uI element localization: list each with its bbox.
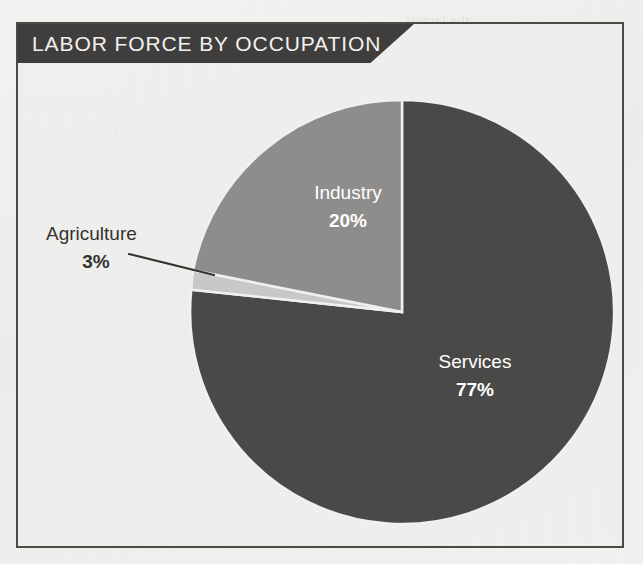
slice-label-agriculture-value: 3%	[82, 251, 110, 272]
slice-label-services-value: 77%	[456, 379, 494, 400]
slice-label-industry-value: 20%	[329, 210, 367, 231]
slice-label-services-name: Services	[439, 351, 512, 372]
slice-label-industry-name: Industry	[314, 182, 382, 203]
chart-frame: LABOR FORCE BY OCCUPATION Industry 20% S…	[16, 22, 624, 548]
chart-panel: LABOR FORCE BY OCCUPATION Industry 20% S…	[18, 24, 622, 546]
pie-chart: Industry 20% Services 77% Agriculture 3%	[18, 24, 622, 546]
scanned-page: the largest predominantly a full economy…	[0, 0, 643, 564]
slice-label-agriculture-name: Agriculture	[46, 223, 137, 244]
